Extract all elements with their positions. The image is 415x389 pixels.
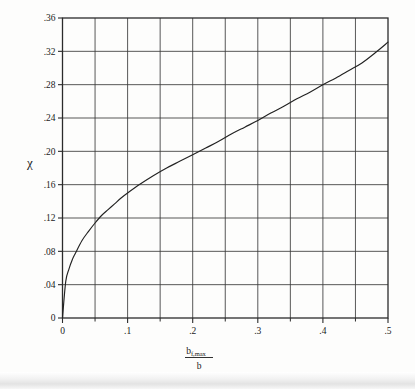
y-tick-label: .12: [44, 213, 56, 223]
x-axis-title-numerator: bf,max: [186, 346, 206, 357]
x-tick-label: 0: [60, 326, 65, 336]
x-tick-labels-group: 0.1.2.3.4.5: [60, 326, 392, 336]
figure-canvas: 0.04.08.12.16.20.24.28.32.36 0.1.2.3.4.5…: [0, 0, 415, 389]
x-axis-title: bf,max b: [185, 346, 213, 371]
y-tick-label: .36: [44, 13, 56, 23]
y-tick-label: .32: [44, 47, 56, 57]
tick-marks-group: [58, 18, 388, 323]
y-tick-label: .28: [44, 80, 56, 90]
x-tick-label: .5: [384, 326, 391, 336]
y-tick-labels-group: 0.04.08.12.16.20.24.28.32.36: [44, 13, 56, 323]
y-tick-label: .04: [44, 280, 56, 290]
x-axis-num-subscript: f,max: [191, 350, 207, 357]
y-axis-title: χ: [26, 155, 33, 170]
y-tick-label: .08: [44, 247, 56, 257]
x-tick-label: .2: [189, 326, 196, 336]
gridlines-group: [63, 18, 389, 318]
chart-plot-area: 0.04.08.12.16.20.24.28.32.36 0.1.2.3.4.5…: [0, 0, 415, 389]
y-tick-label: .24: [44, 113, 56, 123]
x-tick-label: .1: [124, 326, 131, 336]
x-tick-label: .4: [319, 326, 326, 336]
page-edge-shadow: [0, 372, 415, 389]
x-tick-label: .3: [254, 326, 261, 336]
y-tick-label: 0: [51, 313, 56, 323]
y-tick-label: .16: [44, 180, 56, 190]
x-axis-title-denominator: b: [197, 361, 202, 371]
y-tick-label: .20: [44, 147, 56, 157]
